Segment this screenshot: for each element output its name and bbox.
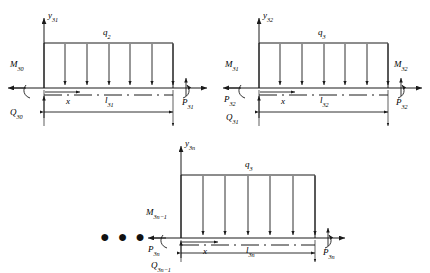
beam-3-load-arrows: [203, 176, 315, 235]
beam-3-right-force-label: P3n: [323, 248, 335, 257]
beam-1-y-axis-label: y31: [48, 11, 58, 20]
beam-2-right-moment-label: M32: [394, 60, 408, 69]
beam-1-right-force-label: P31: [182, 98, 194, 107]
beam-2-load-label: q3: [318, 28, 326, 37]
beam-3-load-label: q3: [245, 160, 253, 169]
beam-2-x-label: x: [281, 97, 285, 106]
beam-3-left-moment-arc: [161, 235, 167, 248]
beam-1-length-label: l31: [105, 96, 114, 105]
beam-2-y-axis-label: y32: [263, 11, 273, 20]
beam-3-left-moment-label: M3n−1: [146, 208, 167, 217]
beam-1-load-label: q2: [103, 28, 111, 37]
beam-2-left-force-label: P32: [224, 95, 236, 104]
beam-3-length-label: l3n: [246, 246, 255, 255]
beam-2-right-force-label: P32: [396, 98, 408, 107]
beam-2-left-moment-arc: [239, 85, 245, 98]
beam-1-load-arrows: [65, 44, 173, 85]
beam-2-left-moment-label: M31: [225, 60, 239, 69]
beam-3-left-force-label: P3n: [148, 245, 160, 254]
beam-1-left-moment-arc: [24, 85, 30, 98]
beam-3-y-axis-label: y3n: [185, 139, 195, 148]
beam-1-x-label: x: [66, 97, 70, 106]
beam-3-left-shear-label: Q3n−1: [151, 261, 171, 270]
beam-2-load-arrows: [280, 44, 388, 85]
beam-1-left-shear-label: Q30: [10, 108, 23, 117]
continuation-ellipsis: ● ● ●: [100, 228, 147, 246]
beam-3-x-label: x: [203, 247, 207, 256]
beam-1-left-moment-label: M30: [10, 60, 24, 69]
beam-2-length-label: l32: [320, 96, 329, 105]
beam-2-left-shear-label: Q31: [226, 113, 239, 122]
